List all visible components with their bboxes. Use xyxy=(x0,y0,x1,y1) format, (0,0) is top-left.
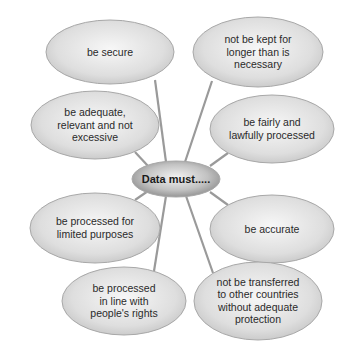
principle-node-accurate: be accurate xyxy=(210,195,334,263)
principle-label-line: to other countries xyxy=(217,288,298,300)
connector-accurate xyxy=(210,192,228,205)
principle-label-line: excessive xyxy=(72,131,118,143)
principle-node-limited-purposes: be processed forlimited purposes xyxy=(30,193,160,263)
principle-node-not-kept-longer: not be kept forlonger than isnecessary xyxy=(193,17,323,87)
principle-label-line: not be kept for xyxy=(224,33,292,45)
principle-label-line: be accurate xyxy=(245,223,300,235)
principle-label-line: be processed xyxy=(92,282,155,294)
connector-fairly-lawfully xyxy=(210,153,228,166)
principle-label-line: necessary xyxy=(234,58,283,70)
principle-label-line: longer than is xyxy=(226,46,289,58)
principle-label-line: people's rights xyxy=(90,307,157,319)
principle-label-line: in line with xyxy=(99,295,148,307)
principle-label-line: lawfully processed xyxy=(229,129,315,141)
connector-adequate xyxy=(135,152,148,166)
center-label: Data must..... xyxy=(142,173,210,185)
principle-label-line: without adequate xyxy=(217,301,298,313)
principle-label-line: relevant and not xyxy=(57,119,132,131)
principle-label-line: be secure xyxy=(87,46,133,58)
principle-label-line: limited purposes xyxy=(57,228,133,240)
center-node: Data must..... xyxy=(132,161,220,197)
principle-label-line: not be transferred xyxy=(217,276,300,288)
principle-node-peoples-rights: be processedin line withpeople's rights xyxy=(62,267,186,335)
principle-node-not-transferred: not be transferredto other countrieswith… xyxy=(194,262,322,340)
principle-label-line: be fairly and xyxy=(243,116,300,128)
principle-node-adequate: be adequate,relevant and notexcessive xyxy=(31,91,159,159)
data-protection-diagram: be securenot be kept forlonger than isne… xyxy=(0,0,349,353)
connector-not-transferred xyxy=(186,196,213,273)
principle-node-secure: be secure xyxy=(46,20,174,84)
principle-label-line: be processed for xyxy=(56,215,135,227)
principle-label-line: protection xyxy=(235,313,281,325)
principle-node-fairly-lawfully: be fairly andlawfully processed xyxy=(210,95,334,163)
connector-not-kept-longer xyxy=(185,81,212,162)
principle-label-line: be adequate, xyxy=(64,106,125,118)
